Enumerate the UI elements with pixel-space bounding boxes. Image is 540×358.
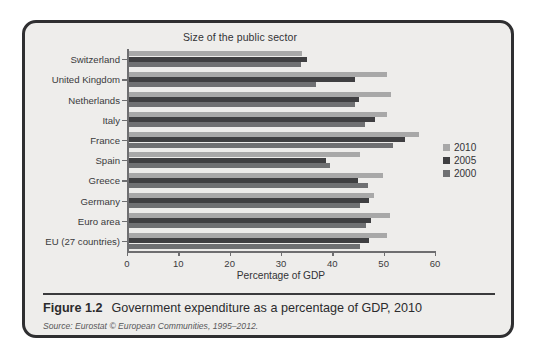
category-label: United Kingdom: [52, 74, 120, 85]
x-axis-tick-label: 20: [215, 258, 245, 269]
y-axis-tick: [122, 180, 127, 181]
figure-caption: Figure 1.2Government expenditure as a pe…: [43, 301, 422, 315]
y-axis-tick: [122, 59, 127, 60]
category-label: EU (27 countries): [45, 235, 120, 246]
x-axis-title: Percentage of GDP: [127, 270, 435, 281]
legend-swatch: [443, 144, 450, 151]
category-label: Greece: [89, 175, 120, 186]
x-axis-tick: [435, 251, 436, 256]
legend-label: 2010: [454, 142, 476, 153]
bar: [129, 203, 361, 208]
figure-number: Figure 1.2: [43, 301, 103, 315]
y-axis-tick: [122, 201, 127, 202]
legend-item: 2000: [443, 167, 476, 180]
y-axis-tick: [122, 221, 127, 222]
x-axis-tick-label: 30: [266, 258, 296, 269]
bar: [129, 223, 366, 228]
y-axis-tick: [122, 140, 127, 141]
category-label: France: [90, 134, 120, 145]
legend-swatch: [443, 170, 450, 177]
bar: [129, 122, 366, 127]
x-axis-tick-label: 50: [369, 258, 399, 269]
bar: [129, 62, 301, 67]
x-axis-tick: [230, 251, 231, 256]
category-label: Italy: [102, 114, 120, 125]
chart-title: Size of the public sector: [25, 31, 455, 43]
legend-label: 2005: [454, 155, 476, 166]
legend-swatch: [443, 157, 450, 164]
plot-region: SwitzerlandUnited KingdomNetherlandsItal…: [127, 49, 435, 251]
y-axis-tick: [122, 241, 127, 242]
category-label: Spain: [95, 155, 120, 166]
bar: [129, 183, 369, 188]
category-label: Switzerland: [70, 54, 120, 65]
bar: [129, 82, 317, 87]
y-axis-tick: [122, 120, 127, 121]
figure-caption-text: Government expenditure as a percentage o…: [112, 301, 423, 315]
x-axis-tick: [127, 251, 128, 256]
bar: [129, 143, 394, 148]
x-axis-tick-label: 0: [112, 258, 142, 269]
bar: [129, 244, 361, 249]
x-axis-tick-label: 60: [420, 258, 450, 269]
y-axis-tick: [122, 160, 127, 161]
bar: [129, 163, 330, 168]
category-label: Netherlands: [68, 94, 120, 105]
y-axis-tick: [122, 100, 127, 101]
figure-card: Size of the public sector SwitzerlandUni…: [22, 20, 514, 338]
chart-legend: 201020052000: [443, 141, 476, 180]
x-axis-tick-label: 40: [317, 258, 347, 269]
legend-label: 2000: [454, 168, 476, 179]
legend-item: 2005: [443, 154, 476, 167]
x-axis-tick: [384, 251, 385, 256]
source-note: Source: Eurostat © European Communities,…: [43, 321, 258, 331]
y-axis-tick: [122, 79, 127, 80]
legend-item: 2010: [443, 141, 476, 154]
x-axis-tick: [281, 251, 282, 256]
category-label: Germany: [81, 195, 120, 206]
x-axis-tick: [178, 251, 179, 256]
chart-area: Size of the public sector SwitzerlandUni…: [25, 23, 511, 285]
x-axis-tick-label: 10: [163, 258, 193, 269]
bar: [129, 102, 356, 107]
caption-divider: [43, 293, 495, 295]
x-axis-tick: [332, 251, 333, 256]
category-label: Euro area: [78, 215, 120, 226]
